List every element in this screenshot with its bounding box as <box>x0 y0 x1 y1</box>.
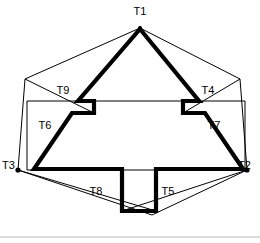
label-t7: T7 <box>208 119 221 131</box>
label-t4: T4 <box>202 84 215 96</box>
label-t1: T1 <box>134 5 147 17</box>
label-t3: T3 <box>2 159 15 171</box>
chord-t5-path <box>122 170 247 211</box>
label-t8: T8 <box>90 185 103 197</box>
chord-t8-path <box>18 170 156 211</box>
vertex-dot-t3 <box>15 167 20 172</box>
inner-rectangle-path <box>27 101 245 170</box>
label-t5: T5 <box>162 185 175 197</box>
figure-container: T1 T2 T3 T4 T5 T6 T7 T8 T9 <box>0 0 260 243</box>
label-t6: T6 <box>39 119 52 131</box>
label-t2: T2 <box>238 159 251 171</box>
vertex-dot-t1 <box>138 26 142 30</box>
label-t9: T9 <box>57 84 70 96</box>
polygon-triangulation-diagram: T1 T2 T3 T4 T5 T6 T7 T8 T9 <box>0 0 260 243</box>
